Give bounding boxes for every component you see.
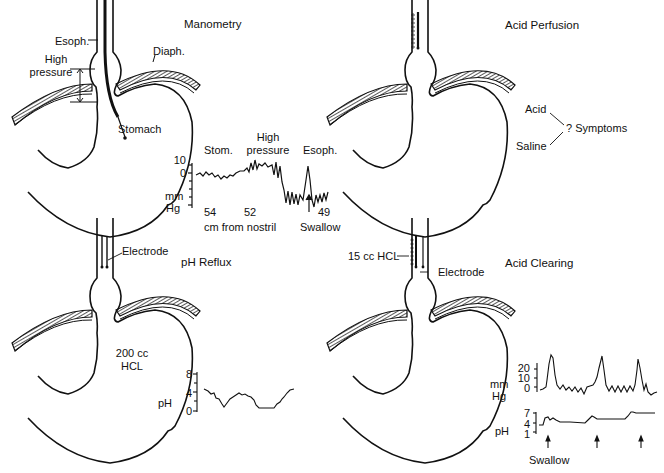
- high-pressure-label-line2: pressure: [28, 66, 74, 78]
- swallow-label: Swallow: [300, 221, 340, 233]
- y-unit-hg: Hg: [166, 202, 180, 214]
- ph-tick-8: 8: [180, 368, 192, 380]
- acid-clearing-ph-trace: [533, 412, 655, 448]
- ph-tick-0: 0: [180, 405, 192, 417]
- y-tick-10: 10: [170, 154, 186, 166]
- electrode-label: Electrode: [122, 245, 168, 257]
- trace-label-esoph: Esoph.: [303, 144, 337, 156]
- manometry-title: Manometry: [184, 18, 242, 30]
- manometry-trace: [188, 160, 328, 212]
- high-pressure-label-line1: High: [38, 53, 74, 65]
- ph-reflux-trace: [193, 372, 294, 412]
- ph-clear-tick-1: 1: [518, 428, 530, 440]
- volume-label-line1: 200 cc: [112, 347, 152, 359]
- trace-label-high: High: [245, 131, 291, 143]
- diagram-canvas: [0, 0, 664, 473]
- electrode-label-2: Electrode: [438, 266, 484, 278]
- stomach-label: Stomach: [118, 123, 161, 135]
- pressure-unit-mm: mm: [490, 378, 508, 390]
- pressure-unit-hg: Hg: [492, 390, 506, 402]
- ph-tick-4: 4: [180, 387, 192, 399]
- acid-perfusion-title: Acid Perfusion: [505, 19, 579, 31]
- pressure-tick-0: 0: [512, 382, 530, 394]
- x-value-54: 54: [204, 206, 216, 218]
- ph-reflux-title: pH Reflux: [181, 256, 232, 268]
- swallow-label-2: Swallow: [529, 454, 569, 466]
- symptoms-label: ? Symptoms: [566, 122, 627, 134]
- y-tick-0: 0: [170, 167, 186, 179]
- diaph-label: Diaph.: [153, 45, 185, 57]
- ph-reflux-stomach-drawing: [12, 218, 200, 463]
- ph-clear-unit: pH: [495, 425, 509, 437]
- x-value-52: 52: [244, 206, 256, 218]
- acid-label: Acid: [525, 103, 546, 115]
- electrode-pointer: [108, 253, 122, 260]
- trace-label-pressure: pressure: [244, 144, 292, 156]
- hcl-label: 15 cc HCL: [348, 250, 399, 262]
- acid-perfusion-stomach-drawing: [327, 0, 515, 237]
- esoph-label: Esoph.: [55, 35, 89, 47]
- volume-label-line2: HCL: [112, 360, 152, 372]
- perfusion-port-dots: [412, 14, 414, 48]
- ph-label: pH: [158, 397, 172, 409]
- symptom-connector-lines: [550, 113, 564, 145]
- trace-label-stom: Stom.: [204, 144, 233, 156]
- saline-label: Saline: [516, 140, 547, 152]
- x-value-49: 49: [318, 206, 330, 218]
- acid-clearing-pressure-trace: [534, 355, 657, 395]
- y-unit-mm: mm: [165, 190, 183, 202]
- x-axis-label: cm from nostril: [204, 221, 276, 233]
- acid-clearing-title: Acid Clearing: [505, 257, 573, 269]
